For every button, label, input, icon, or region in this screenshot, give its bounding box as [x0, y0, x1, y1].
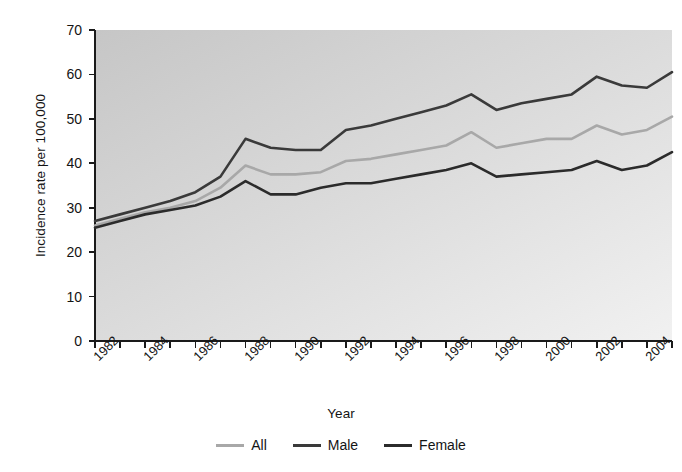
x-tick-label: 1996 — [442, 334, 472, 364]
x-tick-label: 2000 — [543, 334, 573, 364]
x-tick-label: 1984 — [141, 334, 171, 364]
legend-swatch-female — [384, 444, 412, 447]
legend-label: All — [251, 438, 267, 452]
x-axis-title: Year — [0, 406, 682, 421]
x-axis-tick-labels: 1982198419861988199019921994199619982000… — [0, 0, 682, 472]
legend-label: Female — [419, 438, 466, 452]
chart-figure: Incidence rate per 100,000 0102030405060… — [0, 0, 682, 472]
x-tick-label: 2004 — [643, 334, 673, 364]
x-tick-label: 1986 — [191, 334, 221, 364]
x-tick-label: 2002 — [593, 334, 623, 364]
x-tick-label: 1990 — [292, 334, 322, 364]
x-tick-label: 1994 — [392, 334, 422, 364]
chart-legend: AllMaleFemale — [0, 438, 682, 452]
legend-swatch-all — [216, 444, 244, 447]
x-tick-label: 1992 — [342, 334, 372, 364]
x-tick-label: 1982 — [91, 334, 121, 364]
legend-item-all[interactable]: All — [216, 438, 267, 452]
x-tick-label: 1988 — [242, 334, 272, 364]
legend-item-male[interactable]: Male — [293, 438, 358, 452]
legend-label: Male — [328, 438, 358, 452]
legend-swatch-male — [293, 444, 321, 447]
legend-item-female[interactable]: Female — [384, 438, 466, 452]
x-tick-label: 1998 — [492, 334, 522, 364]
